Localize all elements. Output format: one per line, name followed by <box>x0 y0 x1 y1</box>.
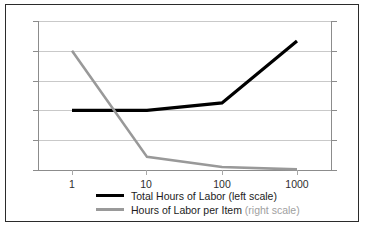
data-series-layer <box>38 21 332 171</box>
legend-label: Total Hours of Labor (left scale) <box>131 190 277 202</box>
legend-swatch-icon <box>96 194 124 198</box>
right-tick-mark-200 <box>332 51 337 52</box>
legend-swatch-icon <box>96 208 124 211</box>
right-tick-mark-50 <box>332 140 337 141</box>
plot-area: 500 400 300 200 100 0 250 200 150 100 50… <box>38 21 332 170</box>
legend-item-hours-of-labor-per-item[interactable]: Hours of Labor per Item (right scale) <box>96 203 326 216</box>
right-tick-mark-150 <box>332 81 337 82</box>
right-tick-mark-0 <box>332 170 337 171</box>
legend-item-total-hours-of-labor[interactable]: Total Hours of Labor (left scale) <box>96 189 326 202</box>
x-axis-tick-label: 1 <box>69 178 75 190</box>
right-tick-mark-100 <box>332 110 337 111</box>
legend-series-name: Total Hours of Labor <box>131 190 228 202</box>
legend-scale-note: (right scale) <box>245 204 300 216</box>
right-tick-mark-250 <box>332 21 337 22</box>
legend-label: Hours of Labor per Item (right scale) <box>131 204 300 216</box>
legend-series-name: Hours of Labor per Item <box>131 204 245 216</box>
legend-scale-note: (left scale) <box>228 190 276 202</box>
chart-legend: Total Hours of Labor (left scale) Hours … <box>96 189 326 217</box>
chart-figure: 500 400 300 200 100 0 250 200 150 100 50… <box>0 0 368 230</box>
